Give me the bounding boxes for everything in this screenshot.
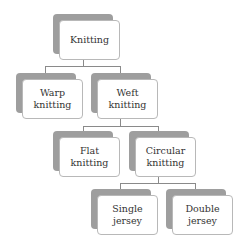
- connector-weft-bar: [83, 126, 159, 127]
- node-label-line2: jersey: [188, 215, 217, 227]
- node-label-line2: knitting: [71, 157, 109, 169]
- node-label-line1: Double: [185, 203, 219, 215]
- node-box: Single jersey: [97, 195, 158, 235]
- node-label-line1: Circular: [146, 145, 186, 157]
- node-box: Double jersey: [172, 195, 233, 235]
- node-label-line1: Weft: [117, 87, 139, 99]
- node-box: Weft knitting: [97, 79, 158, 119]
- node-box: Circular knitting: [135, 137, 196, 177]
- node-label-line2: knitting: [34, 99, 72, 111]
- connector-knitting-bar: [45, 66, 121, 67]
- node-label-line2: knitting: [109, 99, 147, 111]
- node-label-line1: Flat: [80, 145, 99, 157]
- node-box: Warp knitting: [22, 79, 83, 119]
- node-label-line1: Single: [112, 203, 142, 215]
- node-label-line1: Warp: [40, 87, 65, 99]
- node-label-line2: knitting: [147, 157, 185, 169]
- node-label-line2: jersey: [113, 215, 142, 227]
- connector-circular-bar: [120, 183, 196, 184]
- node-box: Flat knitting: [59, 137, 120, 177]
- node-label: Knitting: [70, 34, 109, 46]
- connector-circular-stem: [158, 176, 159, 183]
- node-box: Knitting: [59, 20, 120, 60]
